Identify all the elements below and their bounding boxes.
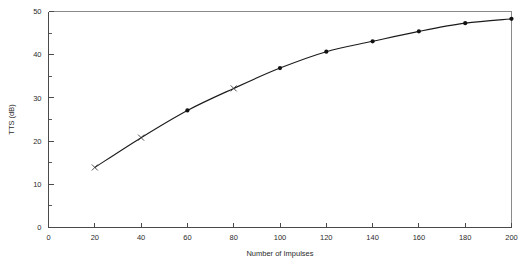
y-tick-label: 20 [33, 137, 41, 146]
data-point-markers [92, 17, 514, 171]
x-tick-label: 140 [366, 233, 379, 242]
x-tick-label: 0 [46, 233, 50, 242]
x-tick-label: 200 [505, 233, 518, 242]
x-tick-label: 20 [91, 233, 99, 242]
y-tick-label: 0 [37, 223, 41, 232]
x-tick-label: 180 [459, 233, 472, 242]
y-tick-label: 50 [33, 7, 41, 16]
chart-figure: 01020304050 020406080100120140160180200 … [0, 0, 527, 267]
plot-axes [49, 12, 512, 228]
y-tick-label: 30 [33, 94, 41, 103]
chart-plot-area: 01020304050 020406080100120140160180200 … [0, 0, 527, 267]
data-point-dot [324, 50, 328, 54]
data-curve [95, 19, 512, 168]
y-axis-label: TTS (dB) [7, 104, 16, 135]
x-tick-label: 60 [183, 233, 191, 242]
y-axis-ticks [49, 12, 54, 228]
x-tick-label: 40 [137, 233, 145, 242]
data-point-cross [92, 164, 98, 170]
data-point-dot [371, 39, 375, 43]
x-axis-tick-labels: 020406080100120140160180200 [46, 233, 517, 242]
data-point-dot [278, 66, 282, 70]
plot-frame-border [49, 12, 512, 228]
plot-frame [49, 12, 512, 228]
x-tick-label: 160 [413, 233, 426, 242]
x-tick-label: 100 [274, 233, 287, 242]
x-tick-label: 80 [230, 233, 238, 242]
y-axis-tick-labels: 01020304050 [33, 7, 41, 232]
y-tick-label: 40 [33, 50, 41, 59]
x-tick-label: 120 [320, 233, 333, 242]
x-axis-ticks [49, 223, 512, 228]
y-tick-label: 10 [33, 180, 41, 189]
data-point-dot [463, 21, 467, 25]
data-series-group [92, 17, 514, 171]
data-point-cross [231, 85, 237, 91]
data-point-dot [185, 108, 189, 112]
data-point-dot [417, 29, 421, 33]
x-axis-label: Number of Impulses [246, 249, 313, 258]
data-point-dot [509, 17, 513, 21]
data-point-cross [138, 135, 144, 141]
